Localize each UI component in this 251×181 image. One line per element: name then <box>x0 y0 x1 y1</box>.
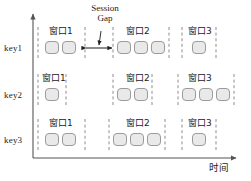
event-box <box>117 88 131 101</box>
key-label-3: key3 <box>4 136 22 145</box>
event-box <box>134 88 148 101</box>
event-box <box>45 88 59 101</box>
event-box <box>130 133 144 146</box>
event-box <box>216 88 230 101</box>
event-box <box>192 41 206 54</box>
event-box <box>151 41 165 54</box>
gap-pointer-leader <box>99 31 101 45</box>
key-label-2: key2 <box>4 91 22 100</box>
event-box <box>182 88 196 101</box>
session-window-diagram: Session Gap 时间 key1key2key3窗口1窗口2窗口3窗口1窗… <box>0 0 251 181</box>
session-gap-arrow <box>86 31 112 48</box>
event-box <box>62 41 76 54</box>
window-label: 窗口3 <box>188 74 212 83</box>
window-label: 窗口2 <box>126 119 150 128</box>
event-box <box>45 41 59 54</box>
window-label: 窗口1 <box>42 74 66 83</box>
event-box <box>45 133 59 146</box>
x-axis-label: 时间 <box>209 163 229 173</box>
event-box <box>62 133 76 146</box>
session-gap-annotation: Session Gap <box>81 3 129 23</box>
session-gap-line1: Session <box>81 3 129 13</box>
window-label: 窗口3 <box>188 119 212 128</box>
window-label: 窗口3 <box>188 27 212 36</box>
event-box <box>199 88 213 101</box>
session-gap-line2: Gap <box>81 13 129 23</box>
event-box <box>192 133 206 146</box>
key-label-1: key1 <box>4 44 22 53</box>
window-label: 窗口1 <box>49 119 73 128</box>
event-box <box>117 41 131 54</box>
window-label: 窗口1 <box>49 27 73 36</box>
event-box <box>113 133 127 146</box>
window-label: 窗口2 <box>126 27 150 36</box>
event-box <box>147 133 161 146</box>
window-label: 窗口2 <box>126 74 150 83</box>
event-box <box>134 41 148 54</box>
